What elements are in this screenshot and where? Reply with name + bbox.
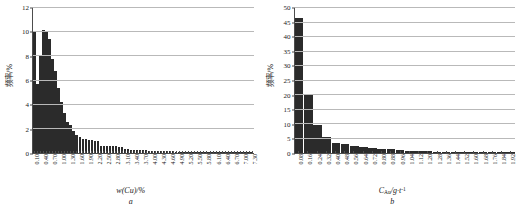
x-tick-mark	[70, 151, 71, 154]
x-tick-mark	[161, 151, 162, 154]
x-tick-mark	[222, 151, 223, 154]
x-tick-mark	[206, 151, 207, 154]
x-tick-mark	[335, 151, 336, 154]
x-tick-mark	[234, 151, 235, 154]
x-tick-label: 0.96	[400, 154, 406, 165]
plot-area-b	[294, 8, 516, 154]
x-tick-mark	[237, 151, 238, 154]
x-tick-mark	[94, 151, 95, 154]
x-tick-label: 1.30	[70, 154, 76, 165]
x-tick-label: 7.00	[243, 154, 249, 165]
x-tick-mark	[76, 151, 77, 154]
x-tick-label: 0.32	[326, 154, 332, 165]
x-tick-mark	[501, 151, 502, 154]
x-tick-mark	[137, 151, 138, 154]
x-tick-label: 0.08	[298, 154, 304, 165]
x-tick-mark	[118, 151, 119, 154]
x-tick-mark	[143, 151, 144, 154]
x-tick-label: 0.88	[390, 154, 396, 165]
x-tick-mark	[510, 151, 511, 154]
x-tick-mark	[418, 151, 419, 154]
x-tick-mark	[122, 151, 123, 154]
y-tick-label: 50	[284, 4, 291, 12]
x-tick-mark	[100, 151, 101, 154]
gridline	[295, 36, 516, 37]
x-tick-label: 1.00	[61, 154, 67, 165]
x-tick-label: 1.76	[492, 154, 498, 165]
x-tick-mark	[173, 151, 174, 154]
plot-area-a	[32, 8, 254, 154]
x-axis-ticks-b: 0.080.160.240.320.400.480.560.640.720.80…	[294, 154, 516, 188]
x-tick-mark	[49, 151, 50, 154]
x-tick-label: 0.24	[317, 154, 323, 165]
y-axis-ticks-a: 024681012	[13, 8, 31, 154]
x-tick-mark	[483, 151, 484, 154]
x-tick-label: 1.60	[79, 154, 85, 165]
x-tick-label: 0.40	[43, 154, 49, 165]
gridline	[295, 109, 516, 110]
y-tick-label: 5	[287, 135, 291, 143]
x-tick-label: 1.92	[510, 154, 516, 165]
x-tick-mark	[167, 151, 168, 154]
x-tick-mark	[427, 151, 428, 154]
x-tick-label: 4.00	[152, 154, 158, 165]
y-tick-label: 35	[284, 48, 291, 56]
x-tick-label: 6.70	[234, 154, 240, 165]
x-tick-mark	[298, 151, 299, 154]
x-tick-label: 1.20	[427, 154, 433, 165]
x-tick-label: 0.40	[335, 154, 341, 165]
figure-histograms: 频率/% 024681012 0.100.400.701.001.301.601…	[0, 0, 523, 208]
x-tick-mark	[185, 151, 186, 154]
x-tick-mark	[146, 151, 147, 154]
chart-panel-a: 频率/% 024681012 0.100.400.701.001.301.601…	[0, 0, 262, 208]
x-tick-label: 1.28	[437, 154, 443, 165]
x-tick-mark	[317, 151, 318, 154]
y-tick-label: 0	[287, 150, 291, 158]
x-tick-mark	[34, 151, 35, 154]
x-tick-label: 2.80	[115, 154, 121, 165]
y-tick-label: 8	[26, 53, 30, 61]
x-tick-mark	[203, 151, 204, 154]
y-tick-label: 30	[284, 62, 291, 70]
gridline	[295, 22, 516, 23]
x-tick-mark	[88, 151, 89, 154]
y-tick-label: 40	[284, 33, 291, 41]
x-tick-mark	[437, 151, 438, 154]
x-tick-mark	[125, 151, 126, 154]
x-tick-mark	[82, 151, 83, 154]
x-tick-label: 0.80	[381, 154, 387, 165]
x-tick-label: 1.68	[483, 154, 489, 165]
x-tick-mark	[73, 151, 74, 154]
x-tick-mark	[213, 151, 214, 154]
x-tick-mark	[152, 151, 153, 154]
y-tick-label: 4	[26, 101, 30, 109]
x-tick-label: 1.04	[409, 154, 415, 165]
x-tick-mark	[61, 151, 62, 154]
x-tick-mark	[149, 151, 150, 154]
gridline	[295, 138, 516, 139]
x-tick-label: 1.90	[88, 154, 94, 165]
gridline	[33, 7, 254, 8]
chart-panel-b: 频率/% 05101520253035404550 0.080.160.240.…	[262, 0, 523, 208]
x-tick-label: 1.60	[473, 154, 479, 165]
x-tick-label: 3.70	[143, 154, 149, 165]
x-tick-mark	[79, 151, 80, 154]
x-tick-label: 1.36	[446, 154, 452, 165]
x-tick-mark	[52, 151, 53, 154]
x-tick-mark	[112, 151, 113, 154]
x-tick-mark	[409, 151, 410, 154]
x-tick-mark	[353, 151, 354, 154]
x-tick-mark	[115, 151, 116, 154]
x-tick-mark	[106, 151, 107, 154]
y-tick-label: 12	[22, 4, 29, 12]
bar-series-a	[33, 8, 254, 153]
x-tick-label: 4.30	[161, 154, 167, 165]
x-tick-mark	[344, 151, 345, 154]
x-tick-mark	[363, 151, 364, 154]
x-tick-label: 1.84	[501, 154, 507, 165]
x-tick-mark	[182, 151, 183, 154]
x-tick-mark	[155, 151, 156, 154]
x-tick-mark	[381, 151, 382, 154]
x-tick-label: 6.10	[216, 154, 222, 165]
gridline	[33, 104, 254, 105]
